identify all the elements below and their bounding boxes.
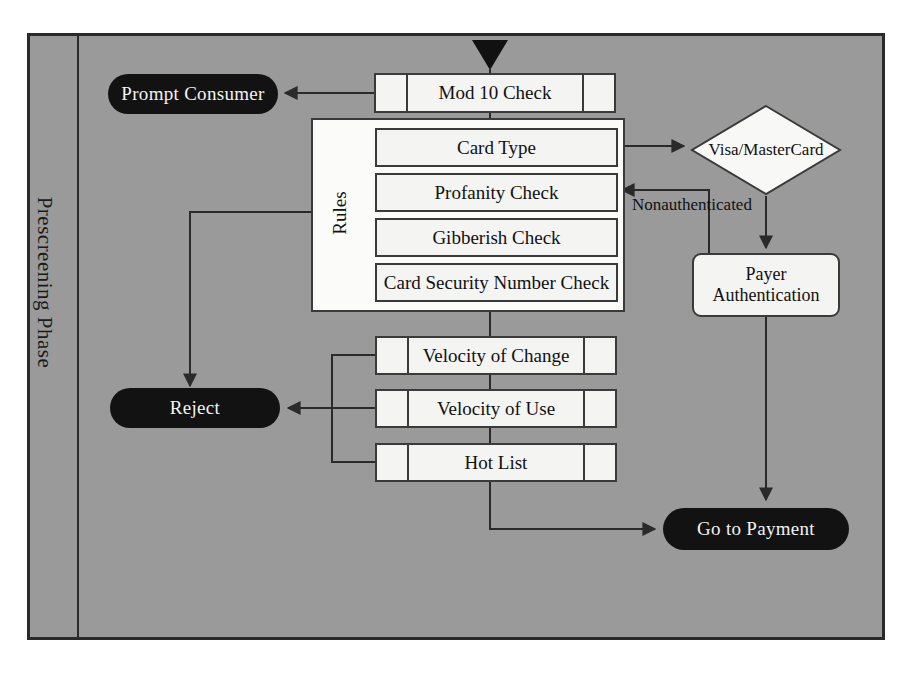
flange-right bbox=[583, 338, 615, 373]
node-label: Velocity of Change bbox=[409, 338, 583, 373]
node-visa-mastercard-decision[interactable]: Visa/MasterCard bbox=[690, 104, 842, 196]
node-label: Visa/MasterCard bbox=[690, 104, 842, 196]
phase-label: Prescreening Phase bbox=[32, 173, 57, 393]
group-rules-label: Rules bbox=[329, 168, 351, 258]
node-mod-10-check[interactable]: Mod 10 Check bbox=[374, 73, 616, 113]
node-hot-list[interactable]: Hot List bbox=[375, 443, 617, 482]
flange-right bbox=[583, 445, 615, 480]
node-reject[interactable]: Reject bbox=[110, 388, 280, 428]
diagram-canvas: Prescreening Phase bbox=[0, 0, 909, 683]
node-label: Go to Payment bbox=[697, 518, 815, 540]
flange-right bbox=[583, 391, 615, 426]
node-go-to-payment[interactable]: Go to Payment bbox=[663, 508, 849, 550]
node-profanity-check[interactable]: Profanity Check bbox=[375, 173, 618, 212]
node-label: Profanity Check bbox=[434, 182, 558, 204]
node-label: Velocity of Use bbox=[409, 391, 583, 426]
node-label: Prompt Consumer bbox=[121, 83, 264, 105]
node-card-type[interactable]: Card Type bbox=[375, 128, 618, 167]
flange-right bbox=[582, 75, 614, 111]
node-payer-authentication[interactable]: Payer Authentication bbox=[692, 253, 840, 317]
node-label-line1: Payer bbox=[746, 264, 787, 285]
node-label-line2: Authentication bbox=[713, 285, 820, 306]
node-velocity-of-change[interactable]: Velocity of Change bbox=[375, 336, 617, 375]
flange-left bbox=[377, 445, 409, 480]
phase-lane-divider bbox=[77, 33, 79, 640]
flange-left bbox=[377, 338, 409, 373]
node-label: Hot List bbox=[409, 445, 583, 480]
node-label: Gibberish Check bbox=[432, 227, 560, 249]
node-label: Reject bbox=[170, 397, 220, 419]
edge-label-nonauthenticated: Nonauthenticated bbox=[632, 195, 752, 215]
node-label: Mod 10 Check bbox=[408, 75, 582, 111]
flange-left bbox=[376, 75, 408, 111]
node-velocity-of-use[interactable]: Velocity of Use bbox=[375, 389, 617, 428]
node-label: Card Type bbox=[457, 137, 536, 159]
node-label: Card Security Number Check bbox=[384, 272, 609, 294]
node-gibberish-check[interactable]: Gibberish Check bbox=[375, 218, 618, 257]
node-prompt-consumer[interactable]: Prompt Consumer bbox=[108, 74, 278, 114]
node-card-security-number-check[interactable]: Card Security Number Check bbox=[375, 263, 618, 302]
flange-left bbox=[377, 391, 409, 426]
